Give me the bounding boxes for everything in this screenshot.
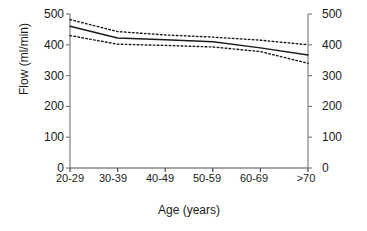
axis-lines xyxy=(70,14,308,168)
data-series-layer xyxy=(70,20,308,64)
chart-plot-svg xyxy=(0,0,367,231)
x-ticks xyxy=(70,168,308,172)
chart-container: Flow (ml/min) Age (years) 500 400 300 20… xyxy=(0,0,367,231)
